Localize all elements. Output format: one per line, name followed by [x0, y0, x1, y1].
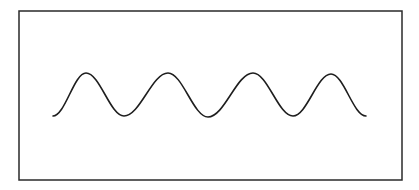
diagram-frame	[19, 11, 402, 180]
wave-diagram	[0, 0, 419, 190]
sine-wave	[53, 73, 366, 117]
